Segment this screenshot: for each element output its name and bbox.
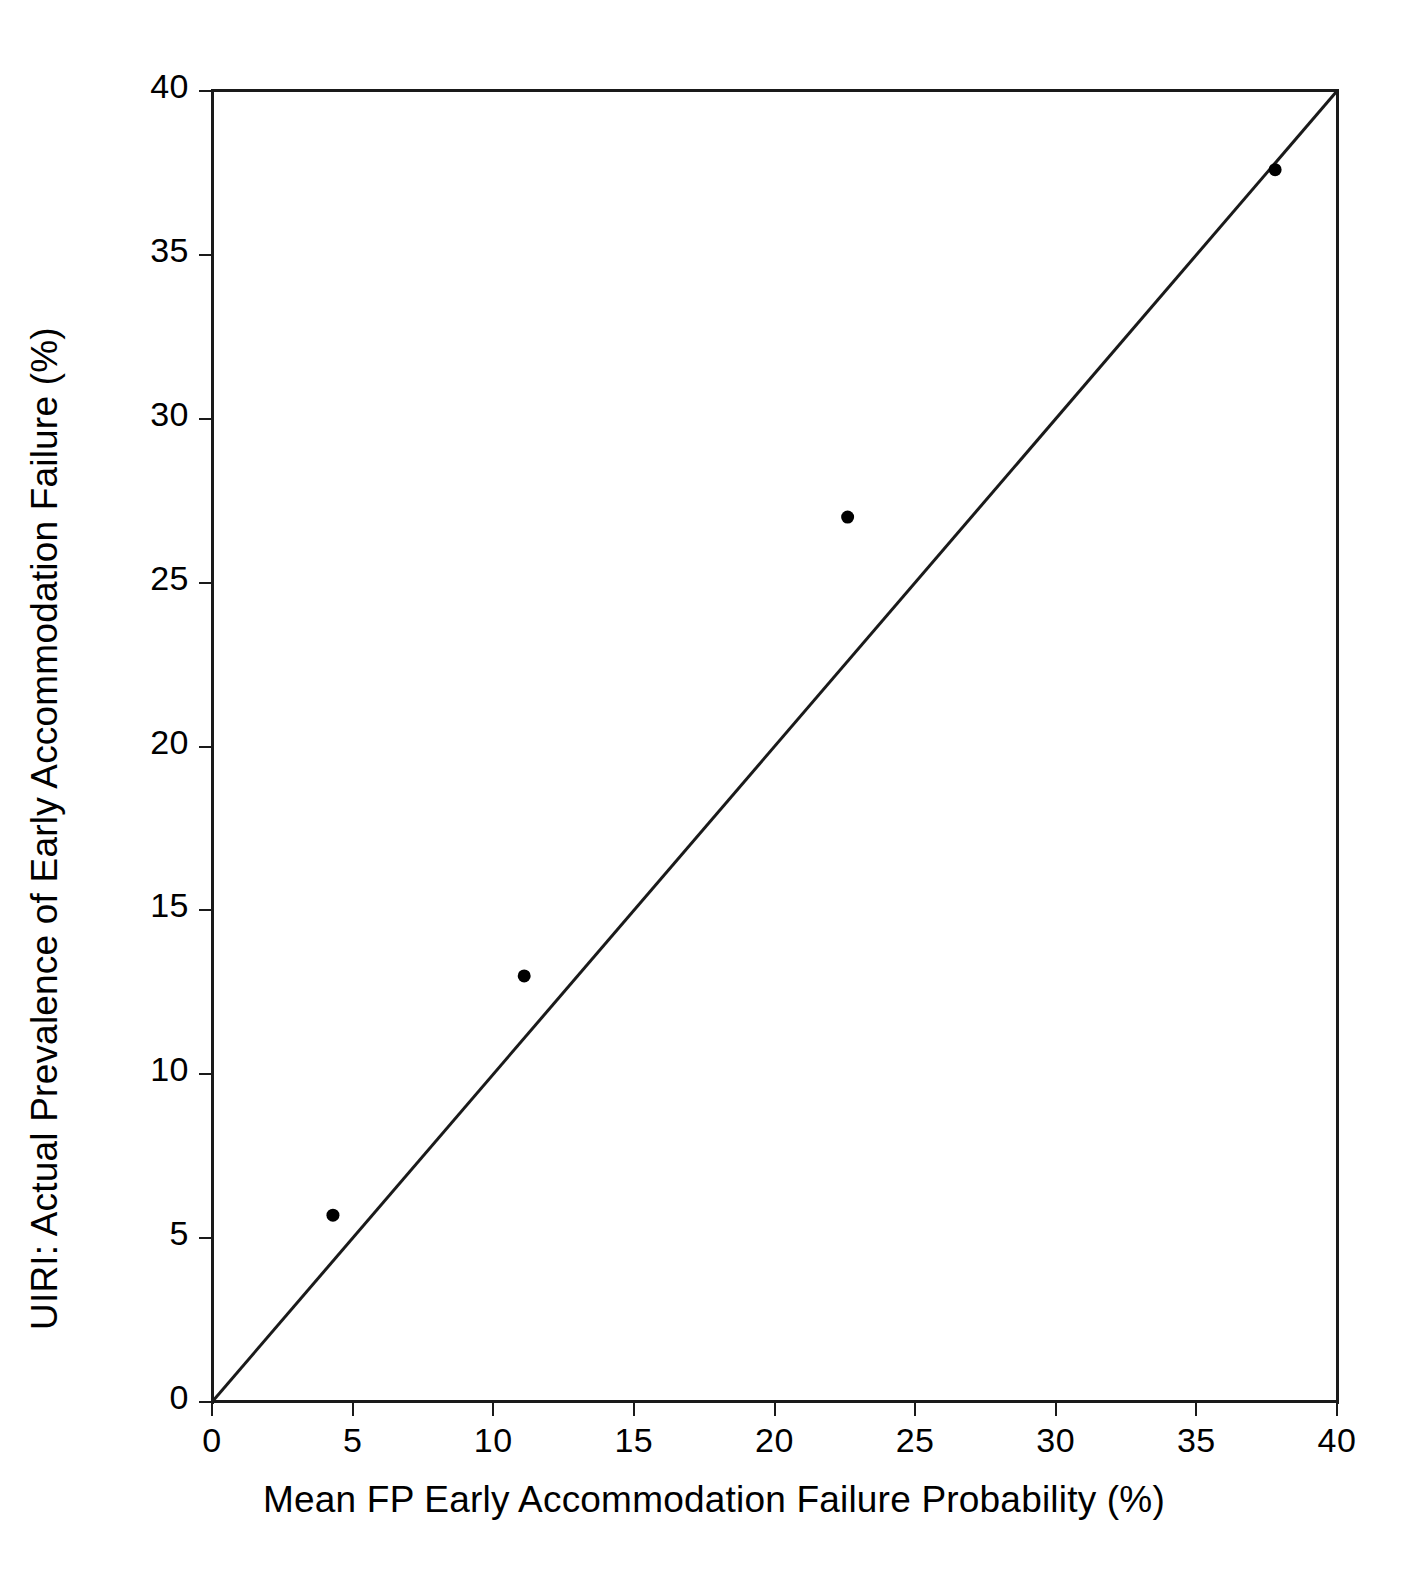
x-axis-title: Mean FP Early Accommodation Failure Prob…	[0, 1479, 1428, 1521]
x-tick-20	[774, 1403, 776, 1416]
x-tick-0	[211, 1403, 213, 1416]
y-tick-5	[199, 1237, 212, 1239]
y-tick-label-25: 25	[99, 559, 189, 598]
y-tick-25	[199, 582, 212, 584]
y-tick-15	[199, 909, 212, 911]
x-tick-5	[352, 1403, 354, 1416]
x-tick-label-15: 15	[589, 1421, 679, 1460]
y-tick-label-5: 5	[99, 1214, 189, 1253]
x-tick-label-30: 30	[1011, 1421, 1101, 1460]
y-tick-35	[199, 254, 212, 256]
y-tick-label-35: 35	[99, 231, 189, 270]
y-tick-label-30: 30	[99, 395, 189, 434]
y-tick-label-20: 20	[99, 723, 189, 762]
x-tick-label-20: 20	[730, 1421, 820, 1460]
data-point	[326, 1209, 339, 1222]
y-tick-30	[199, 418, 212, 420]
x-tick-label-25: 25	[870, 1421, 960, 1460]
x-tick-30	[1055, 1403, 1057, 1416]
y-tick-label-0: 0	[99, 1378, 189, 1417]
y-tick-label-40: 40	[99, 67, 189, 106]
plot-area	[212, 91, 1337, 1402]
identity-reference-line	[212, 91, 1337, 1402]
y-tick-40	[199, 90, 212, 92]
x-tick-label-35: 35	[1151, 1421, 1241, 1460]
data-point	[518, 969, 531, 982]
y-tick-label-15: 15	[99, 886, 189, 925]
x-tick-15	[633, 1403, 635, 1416]
x-tick-label-5: 5	[308, 1421, 398, 1460]
data-point	[1269, 163, 1282, 176]
x-tick-40	[1336, 1403, 1338, 1416]
data-point	[841, 511, 854, 524]
y-axis-title: UIRI: Actual Prevalence of Early Accommo…	[24, 0, 82, 1330]
y-tick-20	[199, 746, 212, 748]
x-tick-10	[492, 1403, 494, 1416]
scatter-plot-figure: 05101520253035400510152025303540 Mean FP…	[0, 0, 1428, 1591]
y-tick-10	[199, 1073, 212, 1075]
plot-canvas	[212, 91, 1337, 1402]
y-tick-0	[199, 1401, 212, 1403]
x-tick-25	[914, 1403, 916, 1416]
x-tick-label-40: 40	[1292, 1421, 1382, 1460]
y-tick-label-10: 10	[99, 1050, 189, 1089]
x-tick-35	[1195, 1403, 1197, 1416]
x-tick-label-0: 0	[167, 1421, 257, 1460]
x-tick-label-10: 10	[448, 1421, 538, 1460]
